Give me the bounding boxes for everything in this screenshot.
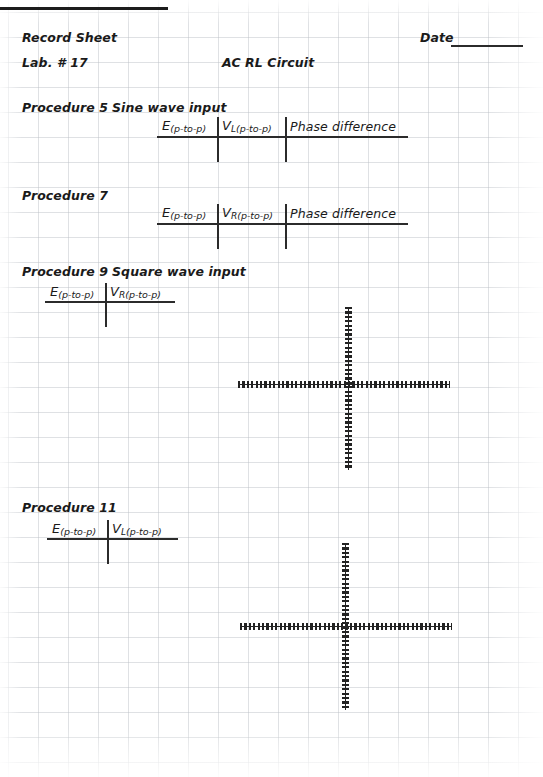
procedure-5-col-1-symbol: E (162, 118, 170, 133)
procedure-9-number: Procedure 9 (22, 264, 108, 279)
procedure-5-col-1-header: E(p-to-p) (162, 118, 206, 134)
procedure-11-col-1-symbol: E (52, 521, 60, 536)
procedure-5-divider-2 (285, 117, 287, 162)
procedure-9-col-2-qualifier: (p-to-p) (125, 289, 161, 300)
procedure-11-col-1-qualifier: (p-to-p) (60, 526, 96, 537)
procedure-11-col-2-symbol: V (112, 521, 121, 536)
procedure-9-col-2-header: VR(p-to-p) (110, 284, 161, 300)
procedure-7-col-1-symbol: E (162, 205, 170, 220)
procedure-7-col-1-qualifier: (p-to-p) (170, 210, 206, 221)
procedure-7-col-2-symbol: V (222, 205, 231, 220)
procedure-7-col-3-header: Phase difference (290, 206, 396, 221)
procedure-9-y-axis (345, 307, 352, 470)
lab-number-label: Lab. # 17 (22, 55, 88, 70)
procedure-5-header-rule (157, 136, 408, 138)
procedure-5-subtitle: Sine wave input (112, 100, 226, 115)
procedure-5-number: Procedure 5 (22, 100, 108, 115)
procedure-5-col-1-qualifier: (p-to-p) (170, 123, 206, 134)
procedure-5-col-2-symbol: V (222, 118, 231, 133)
paper-edge-fade (0, 0, 543, 777)
procedure-11-number: Procedure 11 (22, 500, 117, 515)
procedure-9-divider-1 (105, 283, 107, 327)
record-sheet-page: Record Sheet Lab. # 17 AC RL Circuit Dat… (0, 0, 543, 777)
date-label: Date (420, 30, 454, 45)
top-rule (0, 7, 168, 10)
procedure-11-divider-1 (107, 520, 109, 564)
procedure-7-header-rule (157, 223, 408, 225)
procedure-9-col-2-symbol: V (110, 284, 119, 299)
procedure-5-col-2-qualifier: (p-to-p) (236, 123, 272, 134)
procedure-5-col-2-header: VL(p-to-p) (222, 118, 272, 134)
procedure-7-col-2-qualifier: (p-to-p) (237, 210, 273, 221)
procedure-9-col-1-symbol: E (50, 284, 58, 299)
procedure-7-number: Procedure 7 (22, 188, 108, 203)
procedure-9-col-1-qualifier: (p-to-p) (58, 289, 94, 300)
procedure-7-divider-1 (217, 204, 219, 249)
procedure-5-col-3-header: Phase difference (290, 119, 396, 134)
procedure-11-col-1-header: E(p-to-p) (52, 521, 96, 537)
procedure-9-col-1-header: E(p-to-p) (50, 284, 94, 300)
procedure-11-col-2-qualifier: (p-to-p) (126, 526, 162, 537)
experiment-title: AC RL Circuit (222, 55, 314, 70)
procedure-11-y-axis (342, 543, 349, 710)
procedure-11-col-2-header: VL(p-to-p) (112, 521, 162, 537)
procedure-9-header-rule (45, 301, 175, 303)
procedure-11-x-axis (240, 623, 452, 630)
procedure-11-header-rule (47, 538, 178, 540)
procedure-5-divider-1 (217, 117, 219, 162)
procedure-9-subtitle: Square wave input (112, 264, 246, 279)
procedure-7-col-1-header: E(p-to-p) (162, 205, 206, 221)
procedure-9-oscilloscope-graph[interactable] (0, 0, 543, 777)
procedure-11-oscilloscope-graph[interactable] (0, 0, 543, 777)
graph-paper-grid (0, 0, 543, 777)
date-field-rule[interactable] (451, 45, 523, 47)
procedure-7-col-2-header: VR(p-to-p) (222, 205, 273, 221)
procedure-7-divider-2 (285, 204, 287, 249)
procedure-9-x-axis (238, 381, 450, 388)
record-sheet-label: Record Sheet (22, 30, 117, 45)
